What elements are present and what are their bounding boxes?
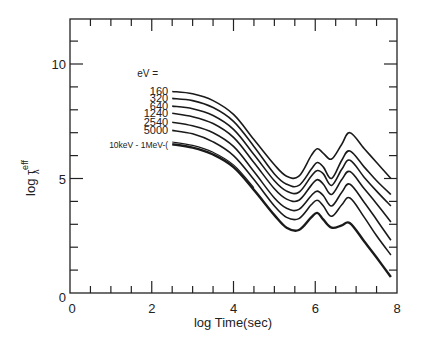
x-tick-label: 8 [393,301,400,316]
x-tick-label: 4 [230,301,237,316]
x-tick-label: 2 [148,301,155,316]
y-tick-label: 0 [59,290,66,305]
curve-640 [172,106,391,206]
legend-header: eV = [137,68,158,79]
x-tick-label: 0 [68,301,75,316]
x-tick-label: 6 [312,301,319,316]
y-tick-label: 10 [52,57,66,72]
legend: eV = 16032064012402540500010keV - 1MeV-( [109,68,168,150]
svg-text:log τeffλ: log τeffλ [20,160,41,196]
y-axis-label-sup: eff [20,160,30,170]
legend-label: 10keV - 1MeV-( [109,140,168,150]
data-curves [172,92,391,278]
curve-10kev-1mev [172,144,391,277]
legend-label: 5000 [144,124,168,136]
y-tick-label: 5 [59,172,66,187]
tick-labels: 024680510 [52,57,401,316]
x-axis-label: log Time(sec) [194,315,272,330]
y-axis-label: log τeffλ [20,160,41,196]
y-axis-label-sub: λ [31,169,41,174]
chart-figure: eV = 16032064012402540500010keV - 1MeV-(… [0,0,422,346]
